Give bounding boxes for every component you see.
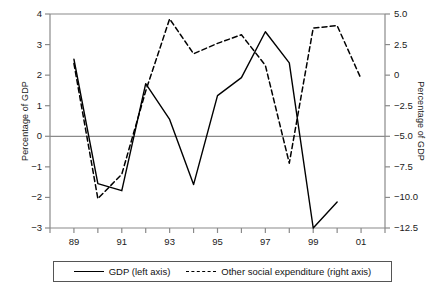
right-tick-label: 2.5 (394, 39, 428, 50)
x-tick-label: 99 (300, 236, 326, 247)
right-tick-label: −2.5 (394, 100, 428, 111)
legend-item-other-social-expenditure[interactable]: Other social expenditure (right axis) (186, 266, 371, 277)
right-tick-label: −10.0 (394, 191, 428, 202)
legend-label-gdp: GDP (left axis) (109, 266, 171, 277)
right-tick-label: −5.0 (394, 130, 428, 141)
legend-item-gdp[interactable]: GDP (left axis) (74, 266, 171, 277)
x-tick-label: 93 (157, 236, 183, 247)
x-tick-label: 01 (348, 236, 374, 247)
left-tick-label: −2 (16, 191, 42, 202)
legend-dashed-line-icon (186, 268, 216, 276)
left-tick-label: 3 (16, 39, 42, 50)
left-tick-label: 2 (16, 69, 42, 80)
x-tick-label: 95 (205, 236, 231, 247)
right-tick-label: 5.0 (394, 8, 428, 19)
left-tick-label: −1 (16, 161, 42, 172)
right-tick-label: −12.5 (394, 222, 428, 233)
series-line-gdp (74, 32, 337, 228)
chart-container: Percentage of GDP Percentage of GDP 4321… (0, 0, 446, 288)
chart-legend: GDP (left axis) Other social expenditure… (53, 261, 392, 282)
legend-label-other-social-expenditure: Other social expenditure (right axis) (221, 266, 371, 277)
legend-solid-line-icon (74, 268, 104, 276)
x-tick-label: 89 (61, 236, 87, 247)
left-tick-label: −3 (16, 222, 42, 233)
series-line-other-social-expenditure (74, 19, 361, 199)
right-tick-label: −7.5 (394, 161, 428, 172)
x-tick-label: 91 (109, 236, 135, 247)
left-tick-label: 0 (16, 130, 42, 141)
left-tick-label: 1 (16, 100, 42, 111)
x-tick-label: 97 (252, 236, 278, 247)
right-tick-label: 0 (394, 69, 428, 80)
left-tick-label: 4 (16, 8, 42, 19)
